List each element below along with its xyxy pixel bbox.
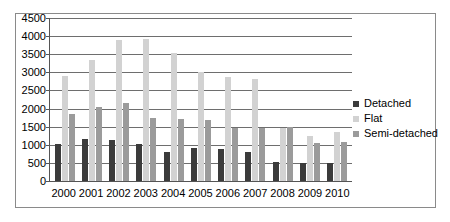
- y-tick-label: 2000: [22, 103, 46, 114]
- bar-group: [160, 18, 187, 181]
- y-tick-label: 500: [28, 157, 46, 168]
- bar-flat: [143, 39, 149, 181]
- bar-flat: [62, 76, 68, 181]
- chart-frame: 450040003500300025002000150010005000 200…: [15, 13, 436, 208]
- bar-detached: [55, 144, 61, 181]
- bar-semi: [96, 107, 102, 181]
- bar-semi: [150, 118, 156, 181]
- legend-item-semi: Semi-detached: [353, 126, 429, 141]
- bar-detached: [273, 162, 279, 181]
- bar-group: [187, 18, 214, 181]
- y-tick-mark: [46, 181, 50, 182]
- bar-semi: [123, 103, 129, 181]
- bar-flat: [252, 79, 258, 182]
- bar-flat: [89, 60, 95, 181]
- legend-label: Semi-detached: [364, 128, 438, 139]
- bar-semi: [259, 128, 265, 181]
- x-tick-label: 2000: [50, 185, 77, 201]
- bar-group: [133, 18, 160, 181]
- x-tick-label: 2009: [296, 185, 323, 201]
- bar-semi: [205, 120, 211, 181]
- x-tick-label: 2010: [324, 185, 351, 201]
- bar-flat: [334, 132, 340, 181]
- bar-group: [269, 18, 296, 181]
- y-tick-label: 4500: [22, 13, 46, 24]
- chart-legend: DetachedFlatSemi-detached: [353, 96, 429, 141]
- bar-detached: [191, 148, 197, 181]
- y-tick-label: 3500: [22, 49, 46, 60]
- bar-semi: [69, 114, 75, 181]
- y-tick-label: 1000: [22, 139, 46, 150]
- bars-layer: [50, 18, 352, 181]
- bar-flat: [307, 136, 313, 181]
- bar-detached: [218, 149, 224, 181]
- legend-item-flat: Flat: [353, 111, 429, 126]
- y-axis: 450040003500300025002000150010005000: [16, 14, 49, 207]
- bar-detached: [82, 139, 88, 181]
- x-tick-label: 2004: [159, 185, 186, 201]
- bar-flat: [198, 72, 204, 181]
- x-tick-label: 2001: [77, 185, 104, 201]
- bar-group: [78, 18, 105, 181]
- y-tick-label: 4000: [22, 31, 46, 42]
- x-tick-label: 2003: [132, 185, 159, 201]
- y-tick-label: 1500: [22, 121, 46, 132]
- x-tick-label: 2005: [187, 185, 214, 201]
- y-tick-label: 3000: [22, 67, 46, 78]
- bar-detached: [109, 140, 115, 181]
- bar-detached: [300, 163, 306, 181]
- bar-semi: [341, 142, 347, 181]
- x-tick-label: 2002: [105, 185, 132, 201]
- bar-detached: [327, 163, 333, 181]
- bar-semi: [232, 128, 238, 181]
- bar-group: [51, 18, 78, 181]
- bar-group: [296, 18, 323, 181]
- bar-group: [215, 18, 242, 181]
- legend-swatch-icon: [353, 101, 359, 107]
- bar-flat: [280, 128, 286, 181]
- legend-label: Detached: [364, 98, 411, 109]
- bar-group: [242, 18, 269, 181]
- bar-detached: [245, 152, 251, 181]
- bar-detached: [164, 152, 170, 181]
- legend-swatch-icon: [353, 131, 359, 137]
- bar-flat: [116, 40, 122, 181]
- x-tick-label: 2007: [242, 185, 269, 201]
- x-axis: 2000200120022003200420052006200720082009…: [49, 185, 352, 201]
- bar-flat: [225, 77, 231, 181]
- x-tick-label: 2006: [214, 185, 241, 201]
- plot-area: [49, 18, 352, 182]
- bar-semi: [314, 143, 320, 181]
- bar-group: [106, 18, 133, 181]
- x-tick-label: 2008: [269, 185, 296, 201]
- bar-semi: [287, 127, 293, 181]
- bar-detached: [136, 144, 142, 181]
- bar-flat: [171, 53, 177, 181]
- bar-group: [324, 18, 351, 181]
- legend-label: Flat: [364, 113, 382, 124]
- legend-item-detached: Detached: [353, 96, 429, 111]
- y-tick-label: 2500: [22, 85, 46, 96]
- bar-semi: [178, 119, 184, 181]
- legend-swatch-icon: [353, 116, 359, 122]
